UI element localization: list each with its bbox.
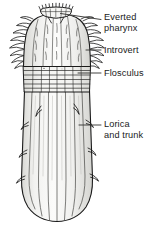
organism-illustration (0, 0, 155, 229)
label-everted-pharynx: Everted pharynx (104, 12, 137, 33)
label-lorica-and-trunk: Lorica and trunk (104, 119, 143, 140)
anatomy-figure: Everted pharynx Introvert Flosculus Lori… (0, 0, 155, 229)
lorica-trunk-group (16, 91, 98, 222)
introvert-group (10, 14, 105, 69)
flosculus-group (24, 66, 91, 92)
organism-body (10, 3, 105, 221)
label-flosculus: Flosculus (104, 68, 144, 79)
label-introvert: Introvert (104, 45, 139, 56)
